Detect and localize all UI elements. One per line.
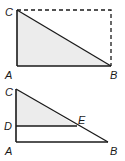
bottom-label-c: C [5,86,13,98]
bottom-label-e: E [78,114,86,126]
top-figure: C A B [4,6,117,81]
bottom-figure: C D E A B [4,86,117,157]
bottom-label-b: B [110,145,117,157]
top-label-b: B [110,69,117,81]
top-label-a: A [4,69,12,81]
top-label-c: C [5,6,13,18]
bottom-label-d: D [4,120,12,132]
diagram-canvas: C A B C D E A B [0,0,125,161]
bottom-label-a: A [4,145,12,157]
